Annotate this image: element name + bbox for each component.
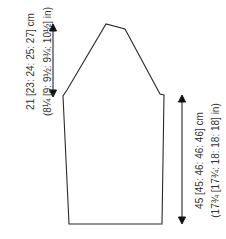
sleeve-length-metric-label: 45 [45: 46: 46: 46] cm xyxy=(194,96,205,226)
sleeve-length-arrow xyxy=(179,95,186,224)
sleeve-length-imperial-label: (17¾ [17¾: 18: 18: 18] in) xyxy=(210,86,221,236)
cap-height-metric-label: 21 [23: 24: 25: 27] cm xyxy=(25,2,36,122)
cap-height-imperial-label: (8¼ [9: 9½: 9¾: 10½] in) xyxy=(42,0,53,132)
sleeve-outline xyxy=(63,24,164,224)
